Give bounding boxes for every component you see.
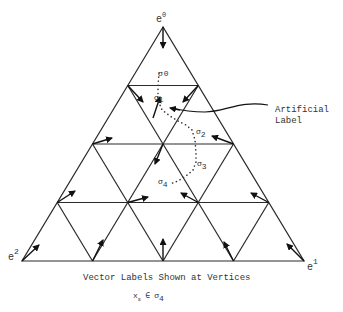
grid-line-r3 bbox=[57, 203, 92, 262]
vector-arrows bbox=[22, 27, 304, 261]
sigma-label-4: σ4 bbox=[158, 177, 168, 189]
annotation-line2: Label bbox=[275, 116, 302, 126]
arrow-icon bbox=[93, 240, 104, 261]
sigma-label-3: σ3 bbox=[197, 159, 207, 171]
vertex-label-e1: e1 bbox=[307, 257, 318, 273]
grid-line-l1 bbox=[93, 86, 199, 262]
caption-title: Vector Labels Shown at Vertices bbox=[83, 273, 250, 283]
grid-line-r1 bbox=[128, 86, 234, 262]
arrow-icon bbox=[155, 144, 163, 164]
arrow-icon bbox=[212, 136, 234, 144]
arrow-icon bbox=[170, 108, 180, 110]
simplex-diagram: e0 e1 e2 σ0 σ1 σ2 σ3 σ4 Artificial Label… bbox=[0, 0, 343, 312]
arrow-icon bbox=[57, 191, 75, 203]
arrow-icon bbox=[183, 86, 198, 103]
sigma-label-2: σ2 bbox=[196, 127, 206, 139]
arrow-icon bbox=[128, 86, 143, 103]
caption-formula: xε∈σ4 bbox=[133, 291, 164, 303]
vertex-label-e0: e0 bbox=[156, 11, 166, 25]
annotation-line1: Artificial bbox=[275, 105, 329, 115]
arrow-icon bbox=[224, 242, 234, 261]
grid-line-l3 bbox=[234, 203, 269, 262]
sigma-label-0: σ0 bbox=[158, 69, 169, 78]
vertex-label-e2: e2 bbox=[8, 247, 19, 263]
sigma-label-1: σ1 bbox=[154, 93, 164, 104]
